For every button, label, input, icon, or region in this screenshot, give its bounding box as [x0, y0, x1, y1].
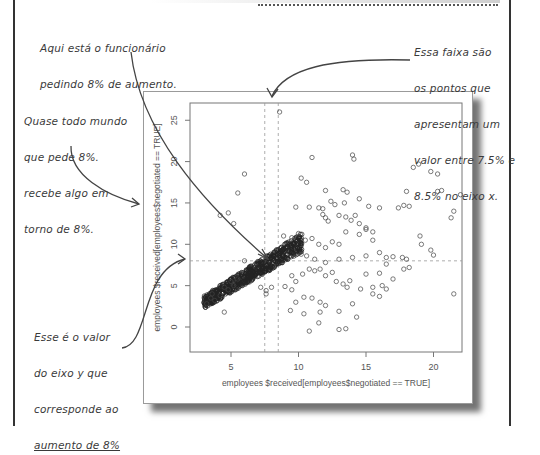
annotation-line: torno de 8%.: [24, 223, 127, 235]
annotation-line: Esse é o valor: [34, 331, 120, 343]
annotation-line: que pede 8%.: [24, 151, 127, 163]
top-edge-shade: [150, 0, 500, 3]
annotation-line: valor entre 7.5% e: [414, 154, 515, 166]
annotation-line: Quase todo mundo: [24, 115, 127, 127]
annotation-almost-everyone: Quase todo mundo que pede 8%. recebe alg…: [24, 91, 127, 247]
annotation-employee-asking-8: Aqui está o funcionário pedindo 8% de au…: [40, 18, 177, 102]
annotation-line: os pontos que: [414, 82, 515, 94]
annotation-line: do eixo y que: [34, 367, 120, 379]
annotation-line: pedindo 8% de aumento.: [40, 78, 177, 90]
annotation-band-range: Essa faixa são os pontos que apresentam …: [414, 22, 515, 214]
annotation-line: recebe algo em: [24, 187, 127, 199]
top-dotted-rule: [258, 4, 498, 6]
annotation-y-axis-value: Esse é o valor do eixo y que corresponde…: [34, 307, 120, 455]
annotation-line: corresponde ao: [34, 403, 120, 415]
annotation-line: Essa faixa são: [414, 46, 515, 58]
annotation-line: aumento de 8%: [34, 439, 120, 451]
annotation-line: apresentam um: [414, 118, 515, 130]
annotation-line: Aqui está o funcionário: [40, 42, 177, 54]
annotation-line: 8.5% no eixo x.: [414, 190, 515, 202]
